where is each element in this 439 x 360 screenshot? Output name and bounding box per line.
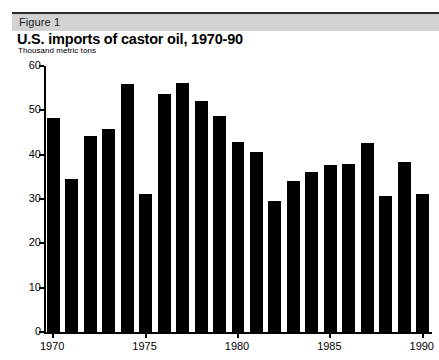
bar — [195, 101, 208, 332]
x-axis-tick-mark — [237, 334, 239, 338]
x-axis-tick-mark — [52, 334, 54, 338]
x-axis-tick-label: 1980 — [225, 339, 249, 353]
bar — [416, 194, 429, 332]
bar — [158, 94, 171, 332]
bar — [65, 179, 78, 332]
bar — [361, 143, 374, 332]
bar-series — [44, 66, 432, 332]
x-axis-tick-mark — [329, 334, 331, 338]
bar — [47, 118, 60, 332]
plot-area: 0102030405060 19701975198019851990 — [0, 0, 439, 360]
bar — [121, 84, 134, 332]
bar — [379, 196, 392, 332]
x-axis-tick-mark — [145, 334, 147, 338]
figure-container: Figure 1 U.S. imports of castor oil, 197… — [0, 0, 439, 360]
bar — [342, 164, 355, 332]
bar — [102, 129, 115, 332]
bar — [84, 136, 97, 332]
bar — [324, 165, 337, 332]
x-axis-tick-label: 1975 — [132, 339, 156, 353]
bar — [268, 201, 281, 332]
bar — [176, 83, 189, 332]
bar — [250, 152, 263, 332]
bar — [139, 194, 152, 332]
x-axis-tick-label: 1990 — [410, 339, 434, 353]
bar — [213, 116, 226, 332]
bar — [398, 162, 411, 332]
x-axis-tick-mark — [422, 334, 424, 338]
x-axis-tick-label: 1985 — [317, 339, 341, 353]
bar — [305, 172, 318, 332]
bar — [287, 181, 300, 332]
bar — [232, 142, 245, 332]
x-axis-tick-label: 1970 — [40, 339, 64, 353]
